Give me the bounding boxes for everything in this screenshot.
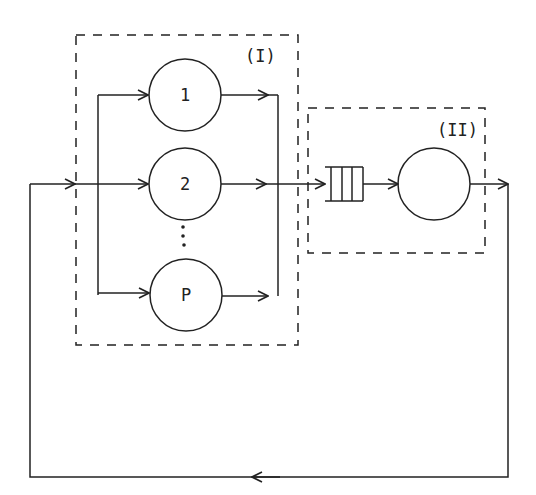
server-1: 1 <box>149 59 221 131</box>
svg-text:2: 2 <box>180 174 190 194</box>
server-II <box>398 148 470 220</box>
svg-text:1: 1 <box>180 85 190 105</box>
svg-text:P: P <box>181 285 191 305</box>
group-I-label: (I) <box>245 46 276 66</box>
queueing-network-diagram: (I) (II) 1 2 P <box>0 0 536 495</box>
feedback-loop <box>30 184 508 477</box>
server-P: P <box>150 259 222 331</box>
ellipsis-dots <box>181 225 186 247</box>
server-2: 2 <box>149 148 221 220</box>
queue-buffer <box>325 167 363 201</box>
group-II-label: (II) <box>437 120 478 140</box>
group-II-box: (II) <box>308 108 485 253</box>
